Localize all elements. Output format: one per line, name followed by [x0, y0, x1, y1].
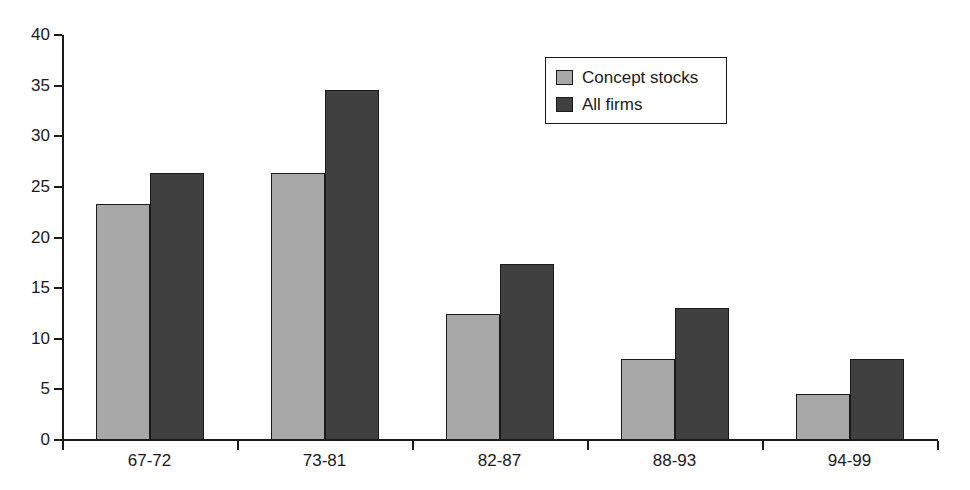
y-axis-tick [54, 135, 62, 137]
y-axis-tick-label: 30 [8, 127, 50, 144]
bar [500, 264, 554, 440]
y-axis-tick-label: 0 [8, 431, 50, 448]
bar [796, 394, 850, 440]
y-axis-line [62, 35, 64, 441]
x-axis-tick-label: 82-87 [412, 452, 587, 469]
bar [96, 204, 150, 440]
legend-label-concept-stocks: Concept stocks [582, 69, 698, 86]
x-axis-tick [587, 441, 589, 450]
y-axis-tick [54, 439, 62, 441]
chart-legend: Concept stocks All firms [545, 57, 727, 124]
y-axis-tick-label: 10 [8, 330, 50, 347]
y-axis-tick-label: 15 [8, 279, 50, 296]
y-axis-tick-label: 40 [8, 26, 50, 43]
bar [271, 173, 325, 440]
x-axis-tick [937, 441, 939, 450]
legend-item-all-firms: All firms [556, 91, 726, 118]
y-axis-tick [54, 237, 62, 239]
x-axis-tick [762, 441, 764, 450]
y-axis-tick [54, 388, 62, 390]
y-axis-tick [54, 287, 62, 289]
y-axis-tick-label: 25 [8, 178, 50, 195]
bar [446, 314, 500, 440]
y-axis-tick [54, 186, 62, 188]
x-axis-tick-label: 88-93 [587, 452, 762, 469]
x-axis-tick [62, 441, 64, 450]
bar [850, 359, 904, 440]
y-axis-tick-label: 35 [8, 77, 50, 94]
x-axis-tick-label: 94-99 [762, 452, 937, 469]
y-axis-tick [54, 85, 62, 87]
bar [325, 90, 379, 440]
legend-swatch-icon-all-firms [556, 97, 573, 112]
plot-area: 0510152025303540 67-7273-8182-8788-9394-… [0, 0, 970, 490]
legend-item-concept-stocks: Concept stocks [556, 64, 726, 91]
legend-swatch-icon-concept-stocks [556, 70, 573, 85]
x-axis-tick-label: 67-72 [62, 452, 237, 469]
y-axis-tick-label: 20 [8, 229, 50, 246]
y-axis-tick [54, 34, 62, 36]
x-axis-tick [237, 441, 239, 450]
y-axis-tick [54, 338, 62, 340]
y-axis-tick-label: 5 [8, 380, 50, 397]
bar-chart: 0510152025303540 67-7273-8182-8788-9394-… [0, 0, 970, 490]
bar [621, 359, 675, 440]
x-axis-tick [412, 441, 414, 450]
bar [675, 308, 729, 440]
x-axis-tick-label: 73-81 [237, 452, 412, 469]
bar [150, 173, 204, 440]
legend-label-all-firms: All firms [582, 96, 642, 113]
